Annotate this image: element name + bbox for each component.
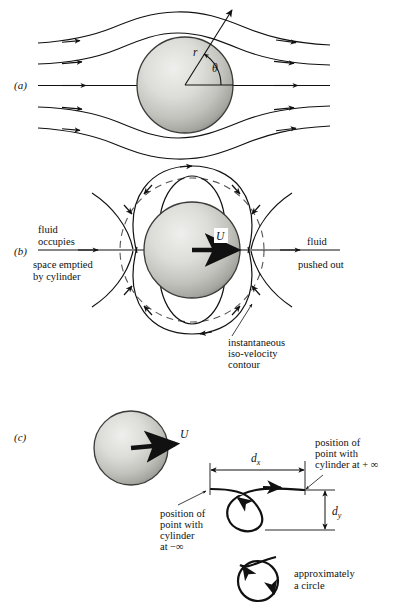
panel-a: (a) r θ [14,10,330,159]
panel-b: (b) [14,166,344,370]
loop-inset-c [238,557,278,601]
start-annot-line1: position of [160,508,206,519]
start-leader-line [178,491,206,505]
fluid-occupies-line2: occupies [38,236,75,247]
contour-annot-line1: instantaneous [228,337,285,348]
particle-path-c [211,488,304,531]
angle-label-a: θ [212,62,218,74]
end-annot-line3: cylinder at + ∞ [315,459,378,470]
dipole-far-right [251,193,292,249]
particle-arrow-out [263,487,281,488]
arrow-sl1-left [62,41,80,43]
space-emptied-line2: by cylinder [33,271,81,282]
velocity-label-c: U [180,428,189,440]
dx-label: dx [251,452,261,467]
contour-leader-line [232,304,252,336]
dipole-far-right-lower [251,251,292,307]
dipole-far-left [92,193,133,249]
loop-annot-line2: a circle [294,580,325,591]
end-annot-line2: point with [315,448,359,459]
arrow-b5 [124,286,132,295]
dipole-far-left-lower [92,251,133,307]
arrow-b1 [124,205,132,214]
start-annot-line2: point with [160,519,204,530]
panel-b-label: (b) [14,245,27,258]
loop-arrow-down [272,586,274,594]
dy-label: dy [332,505,342,520]
panel-c: (c) U dx dy position of point with cylin… [14,411,378,601]
contour-annot-line2: iso-velocity [228,348,278,359]
fluid-flow-figure: (a) r θ (b [0,0,405,610]
end-leader-line [306,475,323,489]
particle-arrow-loop [238,498,246,504]
panel-c-label: (c) [14,431,27,444]
velocity-label-b: U [216,230,225,242]
arrow-b6 [252,286,260,295]
fluid-pushed-line2: pushed out [298,259,344,270]
loop-annot-line1: approximately [294,568,355,579]
radius-label-a: r [193,46,198,58]
contour-annot-line3: contour [228,359,261,370]
start-annot-line3: cylinder [160,530,195,541]
space-emptied-line1: space emptied [33,259,94,270]
arrow-b2 [252,205,260,214]
fluid-pushed-line1: fluid [307,236,328,247]
fluid-occupies-line1: fluid [38,224,59,235]
end-annot-line1: position of [315,437,361,448]
arrow-sl5-left [62,129,80,131]
start-annot-line4: at −∞ [160,541,184,552]
panel-a-label: (a) [14,79,27,92]
